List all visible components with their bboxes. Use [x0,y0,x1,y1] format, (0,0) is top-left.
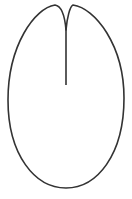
leaf-outline-diagram [0,0,132,199]
